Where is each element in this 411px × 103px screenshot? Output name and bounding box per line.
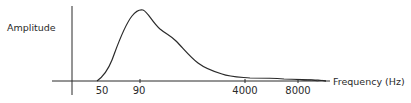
spectrum-chart: Amplitude Frequency (Hz) 50 90 4000 8000 [0, 0, 411, 103]
chart-plot-area [0, 0, 411, 103]
x-tick-label-50: 50 [96, 86, 109, 96]
x-tick-label-4000: 4000 [232, 86, 257, 96]
x-tick-label-8000: 8000 [285, 86, 310, 96]
spectrum-curve [97, 10, 326, 81]
x-axis-label: Frequency (Hz) [333, 77, 405, 87]
y-axis-label: Amplitude [7, 23, 56, 33]
x-tick-label-90: 90 [133, 86, 146, 96]
